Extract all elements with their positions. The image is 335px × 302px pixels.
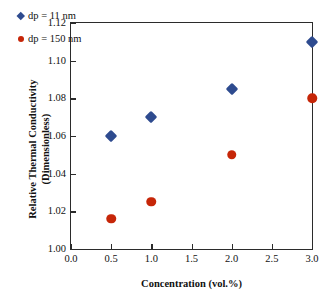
y-axis-tick xyxy=(71,61,76,62)
x-axis-tick xyxy=(71,244,72,249)
x-axis-tick xyxy=(312,244,313,249)
plot-area: 1.001.021.041.061.081.101.120.00.51.01.5… xyxy=(70,22,313,250)
y-axis-tick xyxy=(71,174,76,175)
x-axis-tick-label: 2.5 xyxy=(265,254,278,265)
x-axis-title: Concentration (vol.%) xyxy=(70,278,313,290)
x-axis-tick xyxy=(111,244,112,249)
x-axis-tick-label: 3.0 xyxy=(305,254,318,265)
diamond-marker-icon xyxy=(14,13,28,19)
y-axis-title-line1: Relative Thermal Conductivity xyxy=(27,80,38,219)
data-point xyxy=(227,150,237,160)
legend-item-dp-150nm: dp = 150 nm xyxy=(14,31,81,47)
data-point xyxy=(105,130,118,143)
chart-figure: 1.001.021.041.061.081.101.120.00.51.01.5… xyxy=(0,0,335,302)
legend-label: dp = 150 nm xyxy=(28,34,81,45)
x-axis-tick-label: 1.5 xyxy=(185,254,198,265)
y-axis-title: Relative Thermal Conductivity (Dimension… xyxy=(26,49,52,249)
circle-marker-icon xyxy=(14,36,28,42)
data-point xyxy=(225,83,238,96)
x-axis-tick xyxy=(192,244,193,249)
data-point xyxy=(307,94,317,104)
data-point xyxy=(145,111,158,124)
x-axis-tick-label: 0.5 xyxy=(105,254,118,265)
x-axis-tick-label: 0.0 xyxy=(64,254,77,265)
data-point xyxy=(147,197,157,207)
y-axis-tick xyxy=(71,136,76,137)
y-axis-tick xyxy=(71,211,76,212)
data-point xyxy=(106,214,116,224)
y-axis-tick xyxy=(71,249,76,250)
y-axis-tick xyxy=(71,98,76,99)
data-point xyxy=(306,35,319,48)
legend-item-dp-11nm: dp = 11 nm xyxy=(14,8,81,24)
x-axis-tick-label: 2.0 xyxy=(225,254,238,265)
legend-label: dp = 11 nm xyxy=(28,11,76,22)
x-axis-tick xyxy=(151,244,152,249)
x-axis-tick-label: 1.0 xyxy=(145,254,158,265)
x-axis-tick xyxy=(272,244,273,249)
y-axis-title-line2: (Dimensionless) xyxy=(39,49,52,249)
chart-legend: dp = 11 nm dp = 150 nm xyxy=(14,8,81,54)
x-axis-tick xyxy=(232,244,233,249)
